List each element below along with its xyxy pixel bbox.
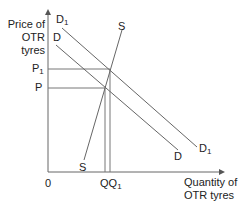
d-label-end: D [174, 150, 182, 163]
p-label: P [35, 81, 42, 94]
supply-curve-s [84, 30, 122, 160]
origin-label: 0 [45, 177, 51, 190]
x-axis-label: Quantity of OTR tyres [184, 176, 237, 202]
d1-label: D1 [56, 13, 68, 29]
d1-label-end: D1 [199, 142, 211, 158]
d-label: D [53, 31, 61, 44]
s-label-bottom: S [79, 161, 86, 174]
demand-curve-d [56, 45, 178, 150]
q-q1-label: QQ1 [100, 177, 122, 193]
s-label-top: S [118, 20, 125, 33]
y-axis-label: Price of OTR tyres [11, 18, 45, 57]
p1-label: P1 [32, 62, 44, 78]
